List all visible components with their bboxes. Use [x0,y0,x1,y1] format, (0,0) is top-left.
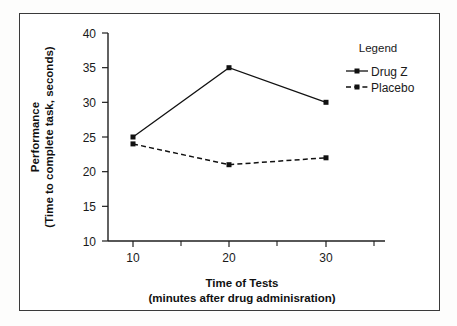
legend-swatch-drug-z-marker [355,69,360,74]
legend-title: Legend [359,42,397,54]
legend-swatch-placebo-marker [355,85,360,90]
line-chart-svg: 40 35 30 25 20 15 10 Performance (Time t… [20,14,438,309]
x-tick-label-10: 10 [126,251,140,265]
x-tick-label-30: 30 [319,251,333,265]
y-tick-label-30: 30 [83,96,97,110]
y-tick-label-35: 35 [83,61,97,75]
x-axis-title-line2: (minutes after drug adminisration) [148,292,335,304]
series-placebo-line [133,144,326,165]
y-tick-label-25: 25 [83,131,97,145]
legend-item-placebo[interactable]: Placebo [346,81,415,95]
data-point-drug-z-20 [227,65,232,70]
data-point-drug-z-10 [131,135,136,140]
data-point-placebo-30 [324,155,329,160]
y-tick-label-15: 15 [83,200,97,214]
page-background: 40 35 30 25 20 15 10 Performance (Time t… [0,0,457,326]
y-tick-label-10: 10 [83,235,97,249]
x-axis-title-line1: Time of Tests [205,277,278,289]
y-axis-title-line1: Performance [29,102,41,172]
data-point-placebo-20 [227,162,232,167]
legend-label-placebo: Placebo [371,81,415,95]
series-drug-z [131,65,329,139]
series-placebo [131,141,329,167]
legend-item-drug-z[interactable]: Drug Z [346,65,408,79]
y-tick-label-40: 40 [83,27,97,41]
y-tick-label-20: 20 [83,165,97,179]
x-axis: 10 20 30 [108,241,385,265]
data-point-placebo-10 [131,141,136,146]
y-axis: 40 35 30 25 20 15 10 [83,27,108,249]
data-point-drug-z-30 [324,100,329,105]
series-drug-z-line [133,68,326,137]
figure-frame: 40 35 30 25 20 15 10 Performance (Time t… [19,13,440,311]
y-axis-title-line2: (Time to complete task, seconds) [43,46,55,227]
y-axis-title-group: Performance (Time to complete task, seco… [29,46,55,227]
legend-label-drug-z: Drug Z [371,65,408,79]
x-axis-title-group: Time of Tests (minutes after drug admini… [148,277,335,304]
chart-canvas: 40 35 30 25 20 15 10 Performance (Time t… [20,14,439,310]
x-tick-label-20: 20 [222,251,236,265]
legend: Legend Drug Z Placebo [346,42,415,95]
